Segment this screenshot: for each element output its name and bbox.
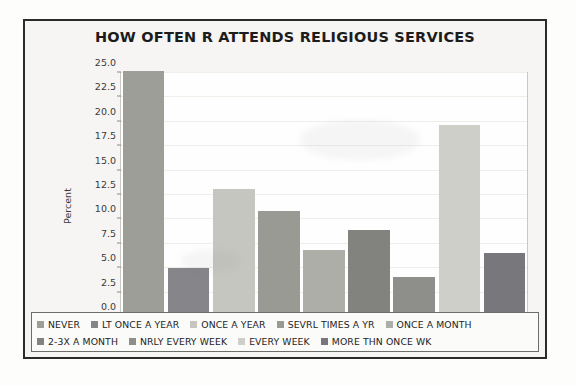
legend-swatch-icon <box>37 338 44 345</box>
legend-item: ONCE A MONTH <box>386 319 472 330</box>
legend-item: NRLY EVERY WEEK <box>129 336 227 347</box>
legend-row-2: 2-3X A MONTHNRLY EVERY WEEKEVERY WEEKMOR… <box>37 333 533 350</box>
y-axis-tick-label: 20.0 <box>95 105 116 116</box>
y-axis-tick-mark <box>117 267 121 268</box>
y-axis-tick-mark <box>117 120 121 121</box>
y-axis-tick-mark <box>117 72 121 73</box>
y-axis-tick-label: 0.0 <box>101 301 116 312</box>
gridline <box>121 121 527 122</box>
y-axis-label: Percent <box>62 188 73 224</box>
bar-once-a-year <box>213 189 255 317</box>
legend-item: 2-3X A MONTH <box>37 336 118 347</box>
chart-title: HOW OFTEN R ATTENDS RELIGIOUS SERVICES <box>25 29 545 45</box>
y-axis-tick-label: 25.0 <box>95 57 116 68</box>
y-axis-tick-mark <box>117 291 121 292</box>
legend-item: MORE THN ONCE WK <box>321 336 432 347</box>
y-axis-tick-mark <box>117 96 121 97</box>
y-axis-tick-label: 22.5 <box>95 81 116 92</box>
legend-swatch-icon <box>277 321 284 328</box>
legend-item: SEVRL TIMES A YR <box>277 319 375 330</box>
plot-wrapper: Percent 25.022.520.017.515.012.510.07.55… <box>91 72 528 340</box>
chart-figure-frame: HOW OFTEN R ATTENDS RELIGIOUS SERVICES P… <box>23 19 547 359</box>
legend-label: LT ONCE A YEAR <box>102 319 179 330</box>
legend-label: ONCE A YEAR <box>201 319 265 330</box>
y-axis-tick-mark <box>117 242 121 243</box>
legend-item: EVERY WEEK <box>238 336 310 347</box>
legend-item: ONCE A YEAR <box>190 319 265 330</box>
plot-area: 25.022.520.017.515.012.510.07.55.02.50.0 <box>120 72 528 318</box>
y-axis-tick-mark <box>117 218 121 219</box>
y-axis-tick-label: 17.5 <box>95 130 116 141</box>
legend-swatch-icon <box>386 321 393 328</box>
legend-label: NEVER <box>48 319 80 330</box>
legend-row-1: NEVERLT ONCE A YEARONCE A YEARSEVRL TIME… <box>37 316 533 333</box>
y-axis-tick-label: 2.5 <box>101 276 116 287</box>
legend-label: SEVRL TIMES A YR <box>288 319 375 330</box>
y-axis-tick-label: 7.5 <box>101 227 116 238</box>
legend-swatch-icon <box>129 338 136 345</box>
bar-more-thn-once-wk <box>484 253 526 317</box>
legend-swatch-icon <box>91 321 98 328</box>
legend-label: EVERY WEEK <box>249 336 310 347</box>
legend-swatch-icon <box>321 338 328 345</box>
legend-item: NEVER <box>37 319 80 330</box>
bar-never <box>123 71 165 317</box>
bar-nrly-every-week <box>393 277 435 317</box>
legend-item: LT ONCE A YEAR <box>91 319 179 330</box>
legend-swatch-icon <box>37 321 44 328</box>
bar-sevrl-times-a-yr <box>258 211 300 317</box>
bar-lt-once-a-year <box>168 268 210 317</box>
legend-label: MORE THN ONCE WK <box>332 336 432 347</box>
y-axis-tick-label: 12.5 <box>95 179 116 190</box>
y-axis-tick-mark <box>117 169 121 170</box>
y-axis-tick-label: 15.0 <box>95 154 116 165</box>
y-axis-tick-mark <box>117 194 121 195</box>
legend-label: ONCE A MONTH <box>397 319 472 330</box>
chart-legend: NEVERLT ONCE A YEARONCE A YEARSEVRL TIME… <box>31 312 539 352</box>
y-axis-tick-label: 10.0 <box>95 203 116 214</box>
bar-once-a-month <box>303 250 345 317</box>
y-axis-tick-label: 5.0 <box>101 252 116 263</box>
legend-label: 2-3X A MONTH <box>48 336 118 347</box>
gridline <box>121 72 527 73</box>
page-background: HOW OFTEN R ATTENDS RELIGIOUS SERVICES P… <box>0 0 576 386</box>
bar-2-3x-a-month <box>348 230 390 317</box>
legend-swatch-icon <box>190 321 197 328</box>
legend-swatch-icon <box>238 338 245 345</box>
y-axis-tick-mark <box>117 145 121 146</box>
legend-label: NRLY EVERY WEEK <box>140 336 227 347</box>
gridline <box>121 96 527 97</box>
bar-every-week <box>439 125 481 317</box>
